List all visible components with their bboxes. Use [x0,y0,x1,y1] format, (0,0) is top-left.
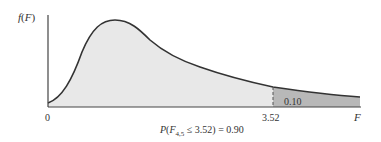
origin-tick-label: 0 [45,112,50,123]
y-axis-label: f(F) [18,11,35,24]
probability-caption: P(F4,5 ≤ 3.52) = 0.90 [159,124,244,138]
tail-probability-label: 0.10 [284,96,302,107]
f-distribution-chart: f(F) 0 3.52 F 0.10 P(F4,5 ≤ 3.52) = 0.90 [0,0,381,142]
body-area [48,20,273,107]
critical-tick-label: 3.52 [262,112,280,123]
x-axis-label: F [353,111,361,123]
